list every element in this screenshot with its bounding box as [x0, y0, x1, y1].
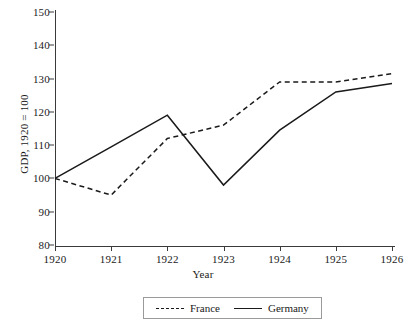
dashed-line-icon — [156, 308, 184, 309]
x-tick-mark — [55, 246, 56, 251]
x-tick-label: 1924 — [268, 253, 291, 265]
x-tick-mark — [336, 246, 337, 251]
gdp-line-chart: GDP, 1920 = 100 8090100110120130140150 1… — [0, 0, 406, 329]
legend-label-germany: Germany — [268, 302, 309, 314]
y-tick-label: 130 — [33, 73, 50, 85]
x-tick-mark — [111, 246, 112, 251]
chart-legend: France Germany — [143, 297, 322, 319]
legend-item-france[interactable]: France — [156, 302, 220, 314]
x-tick-label: 1921 — [100, 253, 123, 265]
x-tick-mark — [280, 246, 281, 251]
series-lines — [55, 12, 392, 245]
y-tick-label: 80 — [39, 239, 50, 251]
plot-area — [55, 12, 392, 245]
x-tick-label: 1922 — [156, 253, 179, 265]
y-tick-label: 100 — [33, 172, 50, 184]
x-tick-label: 1923 — [212, 253, 235, 265]
x-axis-label: Year — [0, 268, 406, 280]
series-line-germany — [55, 84, 392, 186]
solid-line-icon — [234, 308, 262, 309]
x-axis-line — [55, 246, 395, 247]
x-tick-label: 1920 — [44, 253, 67, 265]
x-tick-mark — [392, 246, 393, 251]
x-tick-mark — [167, 246, 168, 251]
y-tick-label: 120 — [33, 106, 50, 118]
y-tick-label: 110 — [33, 139, 50, 151]
x-tick-label: 1925 — [324, 253, 347, 265]
legend-item-germany[interactable]: Germany — [234, 302, 309, 314]
y-tick-label: 140 — [33, 39, 50, 51]
legend-label-france: France — [190, 302, 220, 314]
x-tick-label: 1926 — [381, 253, 404, 265]
y-tick-label: 150 — [33, 6, 50, 18]
y-tick-label: 90 — [39, 206, 50, 218]
x-tick-mark — [224, 246, 225, 251]
